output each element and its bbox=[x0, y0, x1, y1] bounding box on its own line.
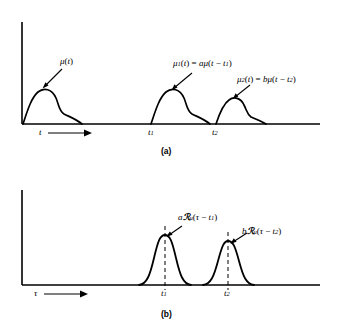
panel-a-label-mu: μ(t) bbox=[60, 56, 73, 66]
panel-b-label-b-correlation: bℛμ(τ − t2) bbox=[242, 226, 281, 236]
figure-container: μ(t) μ1(t) = aμ(t − t1) μ2(t) = bμ(t − t… bbox=[0, 0, 339, 334]
panel-a-axis-arrow-icon bbox=[48, 130, 92, 137]
panel-a-tick-label-t2: t2 bbox=[212, 127, 218, 137]
panel-b-group bbox=[22, 190, 320, 297]
panel-a-label-mu1-equation: μ1(t) = aμ(t − t1) bbox=[173, 58, 232, 68]
panel-a-pulse-mu1 bbox=[151, 89, 210, 124]
panel-a-axis-label: t bbox=[39, 127, 42, 137]
panel-b-tick-label-t2: t2 bbox=[224, 288, 230, 298]
figure-svg bbox=[0, 0, 339, 334]
panel-b-label-a-correlation: aℛμ(τ − t1) bbox=[178, 212, 217, 222]
panel-a-tick-label-t1: t1 bbox=[148, 127, 154, 137]
panel-b-tick-label-t1: t1 bbox=[161, 288, 167, 298]
panel-a-caption: (a) bbox=[161, 146, 171, 156]
panel-a-pulse-mu bbox=[23, 89, 82, 124]
panel-a-leader-mu2 bbox=[233, 85, 250, 99]
panel-b-axis-arrow-icon bbox=[44, 291, 88, 298]
panel-a-label-mu2-equation: μ2(t) = bμ(t − t2) bbox=[237, 74, 296, 84]
panel-a-leader-mu bbox=[43, 69, 63, 89]
panel-b-caption: (b) bbox=[161, 309, 172, 319]
panel-b-leader-a bbox=[166, 226, 182, 237]
panel-a-leader-mu1 bbox=[172, 73, 193, 90]
panel-b-axis-label: τ bbox=[34, 288, 37, 298]
panel-a-pulse-mu2 bbox=[216, 98, 266, 124]
